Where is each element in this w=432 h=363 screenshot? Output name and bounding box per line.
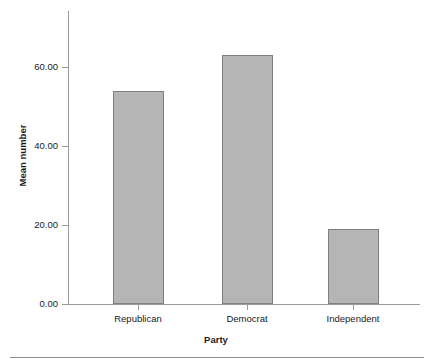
- footer-divider: [10, 357, 424, 358]
- x-tick-democrat: [247, 305, 248, 310]
- y-tick-0: [62, 304, 68, 305]
- x-tick-independent: [353, 305, 354, 310]
- y-axis-title: Mean number: [17, 101, 28, 211]
- y-axis-line: [68, 11, 69, 304]
- y-tick-label-0: 0.00: [0, 299, 58, 309]
- y-tick-label-20: 20.00: [0, 220, 58, 230]
- y-tick-40: [62, 146, 68, 147]
- x-label-independent: Independent: [293, 313, 413, 325]
- x-axis-line: [68, 304, 420, 305]
- y-tick-label-40: 40.00: [0, 141, 58, 151]
- y-tick-60: [62, 67, 68, 68]
- x-label-democrat: Democrat: [187, 313, 307, 325]
- bar-republican: [113, 91, 164, 304]
- bar-independent: [328, 229, 379, 304]
- x-tick-republican: [138, 305, 139, 310]
- x-axis-title: Party: [0, 334, 432, 346]
- bar-democrat: [222, 55, 273, 304]
- bar-chart-figure: 0.00 20.00 40.00 60.00 Mean number Repub…: [0, 0, 432, 363]
- x-label-republican: Republican: [78, 313, 198, 325]
- y-tick-label-60: 60.00: [0, 62, 58, 72]
- y-tick-20: [62, 225, 68, 226]
